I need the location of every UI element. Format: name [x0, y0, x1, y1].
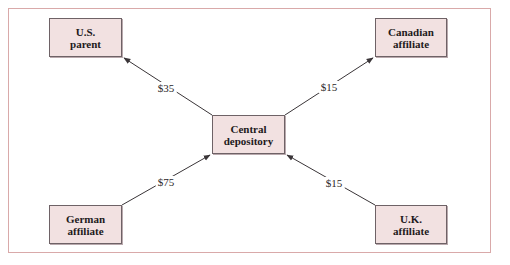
flow-label-central-to-canadian-affiliate: $15	[319, 81, 340, 93]
node-us-parent: U.S. parent	[49, 18, 122, 57]
node-us-parent-line1: U.S.	[76, 26, 96, 38]
node-uk-affiliate-line1: U.K.	[400, 213, 422, 225]
node-central-depository-line2: depository	[224, 135, 274, 147]
node-german-affiliate: German affiliate	[49, 205, 122, 244]
node-canadian-affiliate-line1: Canadian	[388, 26, 434, 38]
node-canadian-affiliate-line2: affiliate	[393, 38, 429, 50]
node-central-depository-line1: Central	[230, 123, 266, 135]
flow-label-uk-affiliate-to-central: $15	[324, 177, 345, 189]
node-central-depository: Central depository	[212, 115, 285, 154]
flow-label-german-affiliate-to-central: $75	[156, 176, 177, 188]
node-us-parent-line2: parent	[70, 38, 101, 50]
node-canadian-affiliate: Canadian affiliate	[375, 18, 447, 57]
node-uk-affiliate-line2: affiliate	[393, 225, 429, 237]
node-german-affiliate-line1: German	[66, 213, 105, 225]
flow-label-central-to-us-parent: $35	[156, 82, 177, 94]
node-uk-affiliate: U.K. affiliate	[375, 205, 447, 244]
node-german-affiliate-line2: affiliate	[67, 225, 103, 237]
